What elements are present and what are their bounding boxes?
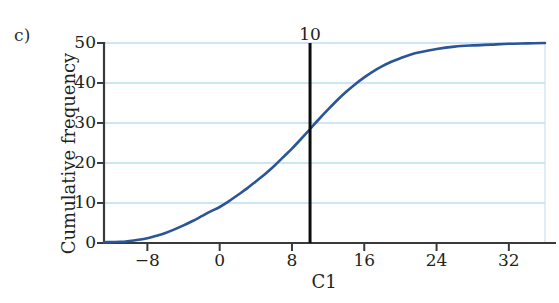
- reference-line-label: 10: [287, 24, 333, 44]
- cumulative-frequency-curve: [104, 43, 545, 242]
- panel-label: c): [14, 25, 31, 45]
- x-tick-label-minus8: −8: [124, 250, 170, 270]
- x-tick-label-32: 32: [486, 250, 532, 270]
- x-tick-label-8: 8: [269, 250, 315, 270]
- y-tick-label-20: 20: [62, 152, 96, 172]
- figure-panel-c: c) Cumulative frequency C1 50 40 30 20 1…: [0, 0, 559, 303]
- y-tick-label-10: 10: [62, 192, 96, 212]
- x-tick-label-16: 16: [341, 250, 387, 270]
- x-tick-label-0: 0: [197, 250, 243, 270]
- y-tick-label-0: 0: [62, 232, 96, 252]
- y-tick-label-40: 40: [62, 72, 96, 92]
- y-tick-label-30: 30: [62, 112, 96, 132]
- y-tick-label-50: 50: [62, 32, 96, 52]
- x-axis-title: C1: [294, 271, 354, 292]
- x-tick-label-24: 24: [414, 250, 460, 270]
- gridlines-horizontal: [104, 43, 545, 203]
